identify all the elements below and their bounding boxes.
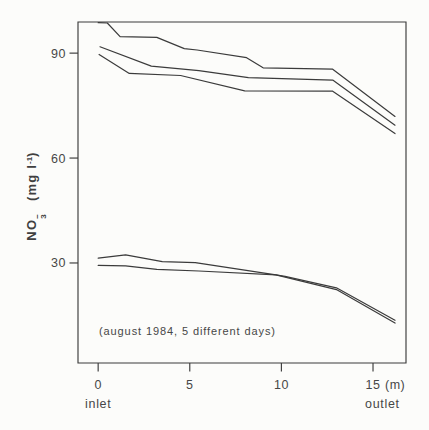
y-axis-label-compound: NO bbox=[24, 219, 39, 241]
x-tick-label-15: 15 bbox=[366, 378, 381, 392]
chart-svg: 306090051015 bbox=[0, 0, 429, 430]
x-tick-label-0: 0 bbox=[94, 378, 101, 392]
x-tick-label-5: 5 bbox=[186, 378, 193, 392]
y-tick-label-90: 90 bbox=[51, 47, 66, 61]
x-axis-unit-label: (m) bbox=[385, 378, 405, 392]
annotation: (august 1984, 5 different days) bbox=[99, 325, 276, 337]
y-tick-label-60: 60 bbox=[51, 152, 66, 166]
x-axis-right-label: outlet bbox=[365, 397, 400, 411]
figure: 306090051015 (august 1984, 5 different d… bbox=[0, 0, 429, 430]
plot-frame bbox=[78, 22, 406, 363]
series-line-day-3 bbox=[99, 55, 395, 134]
series-line-day-5 bbox=[98, 265, 395, 323]
y-tick-label-30: 30 bbox=[51, 256, 66, 270]
series-line-day-4 bbox=[98, 255, 395, 320]
y-axis-unit: (mg l-1) bbox=[24, 151, 39, 201]
x-axis-left-label: inlet bbox=[85, 397, 111, 411]
x-tick-label-10: 10 bbox=[274, 378, 289, 392]
y-axis-label-subsup: −3 bbox=[35, 214, 47, 219]
y-axis-label: NO−3(mg l-1) bbox=[24, 151, 47, 240]
series-line-day-1 bbox=[98, 23, 395, 117]
